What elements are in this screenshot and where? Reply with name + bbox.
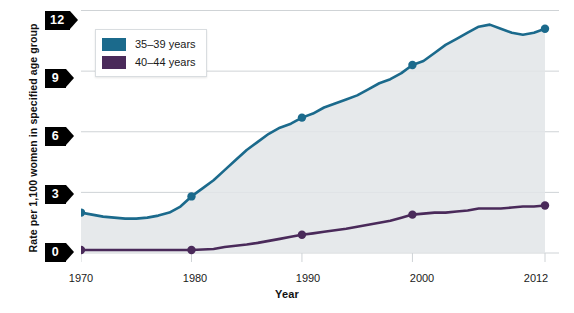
x-tick-2012: 2012 — [524, 272, 548, 284]
legend-item-35-39[interactable]: 35–39 years — [102, 35, 196, 53]
x-tick-1980: 1980 — [183, 272, 207, 284]
y-tick-0-label: 0 — [45, 243, 66, 262]
y-tick-9: 9 — [45, 69, 74, 88]
y-tick-3-label: 3 — [45, 185, 66, 204]
x-tick-1970: 1970 — [69, 272, 93, 284]
legend-label-35-39: 35–39 years — [135, 38, 196, 50]
y-tick-0: 0 — [45, 243, 74, 262]
legend-swatch-40-44 — [102, 56, 126, 69]
y-tick-9-label: 9 — [45, 69, 66, 88]
y-tick-12-label: 12 — [45, 11, 70, 30]
y-tick-6-pointer — [66, 127, 74, 145]
chart-legend: 35–39 years 40–44 years — [95, 29, 207, 77]
y-tick-9-pointer — [66, 69, 74, 87]
y-tick-3-pointer — [66, 185, 74, 203]
y-tick-12: 12 — [45, 11, 78, 30]
legend-swatch-35-39 — [102, 38, 126, 51]
x-axis-title: Year — [0, 288, 574, 300]
y-tick-6: 6 — [45, 127, 74, 146]
y-tick-0-pointer — [66, 243, 74, 261]
x-tick-1990: 1990 — [296, 272, 320, 284]
y-tick-3: 3 — [45, 185, 74, 204]
legend-item-40-44[interactable]: 40–44 years — [102, 53, 196, 71]
y-tick-6-label: 6 — [45, 127, 66, 146]
legend-label-40-44: 40–44 years — [135, 56, 196, 68]
x-tick-2000: 2000 — [410, 272, 434, 284]
chart-container: Rate per 1,100 women in specified age gr… — [0, 0, 574, 313]
y-tick-12-pointer — [70, 11, 78, 29]
